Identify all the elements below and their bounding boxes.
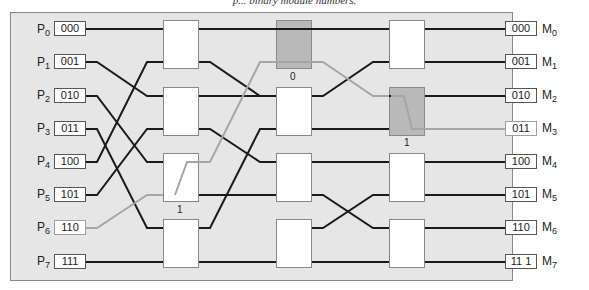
output-address-m3: 011 (505, 121, 537, 136)
output-address-m4: 100 (505, 154, 537, 169)
output-label-m1: M1 (542, 55, 557, 71)
output-address-m1: 001 (505, 54, 537, 69)
output-address-m0: 000 (505, 21, 537, 36)
output-label-m0: M0 (542, 22, 557, 38)
output-address-m7: 11 1 (505, 254, 537, 269)
route-overlay (0, 0, 589, 290)
output-label-m7: M7 (542, 254, 557, 270)
output-address-m6: 110 (505, 220, 537, 235)
output-address-m2: 010 (505, 88, 537, 103)
output-label-m5: M5 (542, 187, 557, 203)
output-address-m5: 101 (505, 187, 537, 202)
output-label-m3: M3 (542, 121, 557, 137)
output-label-m4: M4 (542, 154, 557, 170)
output-label-m2: M2 (542, 88, 557, 104)
output-label-m6: M6 (542, 220, 557, 236)
